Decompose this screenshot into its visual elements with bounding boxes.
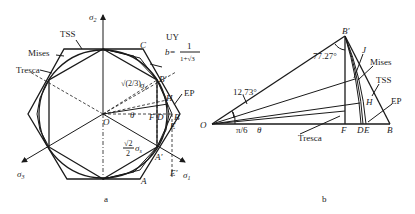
ep-leader xyxy=(174,94,182,105)
sigma3-label: σ3 xyxy=(17,169,24,180)
point-b-b: B xyxy=(387,125,393,135)
angle-pi-6: π/6 xyxy=(236,125,248,135)
uy-b-denominator: 1+√3 xyxy=(180,55,195,63)
sigma2-label: σ2 xyxy=(89,12,96,23)
mises-label: Mises xyxy=(28,48,50,58)
point-j: J xyxy=(362,45,367,55)
ep-label-b: EP xyxy=(391,96,402,106)
figure-b: O B′ J H F D E B Mises TSS EP Tresca 12.… xyxy=(200,26,402,204)
uy-label: UY xyxy=(166,32,179,42)
mises-leader xyxy=(56,55,64,56)
origin-o: O xyxy=(103,117,110,127)
radius-upper-sym: σs xyxy=(140,80,147,91)
mises-label-b: Mises xyxy=(370,57,392,67)
radius-lower-den: 2 xyxy=(126,149,130,158)
origin-o-b: O xyxy=(200,120,207,130)
angle-12-73: 12.73° xyxy=(233,87,257,97)
point-f-b: F xyxy=(340,125,347,135)
radius-lower-num: √2 xyxy=(124,139,132,148)
ray-h xyxy=(212,103,360,124)
tresca-label-b: Tresca xyxy=(298,133,322,143)
point-h: H xyxy=(165,93,173,103)
point-a: A xyxy=(140,176,147,186)
tresca-leader xyxy=(40,70,52,73)
point-a-prime: A′ xyxy=(154,152,163,162)
point-d: D xyxy=(156,112,164,122)
caption-a: a xyxy=(104,194,108,204)
point-b-prime-b: B′ xyxy=(342,26,350,36)
mises-leader-b xyxy=(358,66,373,80)
tss-label-b: TSS xyxy=(376,75,392,85)
point-h-b: H xyxy=(365,97,373,107)
theta-label-b: θ xyxy=(257,125,262,135)
theta-label-a: θ xyxy=(130,110,135,120)
point-c: C xyxy=(140,40,147,50)
angle-arc-77 xyxy=(335,44,345,50)
point-d-b: D xyxy=(356,125,364,135)
tss-leader xyxy=(76,40,82,49)
angle-77-27: 77.27° xyxy=(313,51,337,61)
sigma1-axis-neg xyxy=(30,72,103,114)
point-e-prime: E′ xyxy=(169,168,178,178)
yield-criteria-figure: σ2 σ1 σ3 TSS Mises Tresca UY b= 1 1+√3 E… xyxy=(0,0,415,214)
uy-b-label: b= xyxy=(165,47,176,57)
point-e: E xyxy=(169,121,176,131)
radius-lower-sym: σs xyxy=(135,143,142,154)
caption-b: b xyxy=(322,194,327,204)
tresca-label: Tresca xyxy=(16,65,40,75)
sigma1-label: σ1 xyxy=(183,170,190,181)
ep-label: EP xyxy=(184,88,195,98)
uy-b-numerator: 1 xyxy=(187,41,192,51)
point-e-b: E xyxy=(363,125,370,135)
radius-upper-coef: √(2/3) xyxy=(121,79,141,88)
point-f: F xyxy=(148,112,155,122)
figure-a: σ2 σ1 σ3 TSS Mises Tresca UY b= 1 1+√3 E… xyxy=(16,12,200,204)
line-o-b-prime xyxy=(212,36,345,124)
tss-label: TSS xyxy=(60,29,76,39)
tresca-leader-b xyxy=(300,116,340,134)
point-b-prime: B′ xyxy=(159,74,167,84)
